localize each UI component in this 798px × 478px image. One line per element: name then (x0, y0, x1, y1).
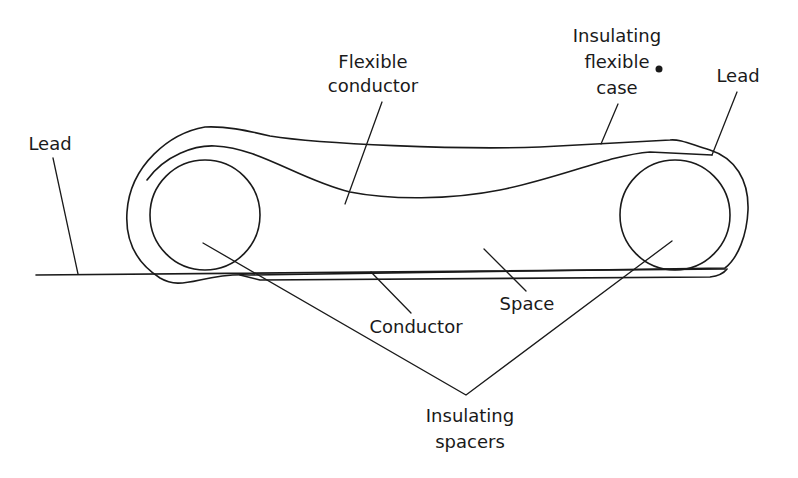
label-insulating-case-3: case (596, 77, 637, 98)
tape-switch-diagram: Flexible conductor Insulating flexible c… (0, 0, 798, 478)
left-lead-line (36, 269, 725, 275)
label-space: Space (500, 293, 555, 314)
insulating-case-outline (127, 127, 748, 283)
label-flexible-conductor-2: conductor (328, 75, 419, 96)
label-lead-left: Lead (28, 133, 71, 154)
flexible-conductor-sheet (147, 146, 712, 198)
leader-flexible-conductor (345, 102, 382, 204)
leader-insulating-case (601, 104, 618, 144)
diagram-canvas: Flexible conductor Insulating flexible c… (0, 0, 798, 478)
label-flexible-conductor-1: Flexible (338, 51, 407, 72)
label-insulating-spacers-2: spacers (435, 431, 505, 452)
leader-conductor (371, 272, 411, 313)
leader-lead-left (53, 158, 78, 274)
label-insulating-case-1: Insulating (573, 25, 661, 46)
right-insulating-spacer (620, 160, 730, 270)
leader-lead-right (712, 92, 737, 155)
marker-dot (656, 66, 663, 73)
label-insulating-spacers-1: Insulating (426, 405, 514, 426)
label-insulating-case-2: flexible (584, 51, 649, 72)
left-insulating-spacer (150, 160, 260, 270)
label-conductor: Conductor (369, 316, 463, 337)
label-lead-right: Lead (716, 65, 759, 86)
